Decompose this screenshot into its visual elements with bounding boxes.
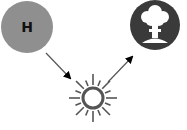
arrow-fusion-to-explosion bbox=[108, 57, 132, 82]
sun-ray bbox=[75, 103, 81, 105]
sun-ray bbox=[98, 80, 100, 86]
hydrogen-node: H bbox=[1, 1, 53, 53]
explosion-node bbox=[130, 0, 180, 50]
hydrogen-label: H bbox=[21, 19, 33, 35]
diagram-canvas: H bbox=[0, 0, 187, 130]
sun-ray bbox=[75, 91, 81, 93]
sun-ray bbox=[102, 107, 110, 115]
sun-burst-icon bbox=[69, 74, 117, 122]
sun-ray bbox=[102, 81, 110, 89]
arrow-hydrogen-to-fusion bbox=[46, 53, 70, 78]
sun-ray bbox=[76, 81, 84, 89]
sun-ray bbox=[105, 103, 111, 105]
sun-ray bbox=[105, 91, 111, 93]
sun-ray bbox=[86, 110, 88, 116]
sun-ray bbox=[98, 110, 100, 116]
sun-ray bbox=[76, 107, 84, 115]
sun-ray bbox=[86, 80, 88, 86]
